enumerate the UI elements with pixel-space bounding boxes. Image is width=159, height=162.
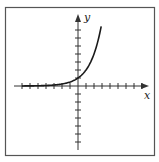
- exponential-graph: x y: [0, 0, 159, 162]
- x-axis-label: x: [144, 89, 151, 102]
- y-axis-label: y: [83, 11, 91, 24]
